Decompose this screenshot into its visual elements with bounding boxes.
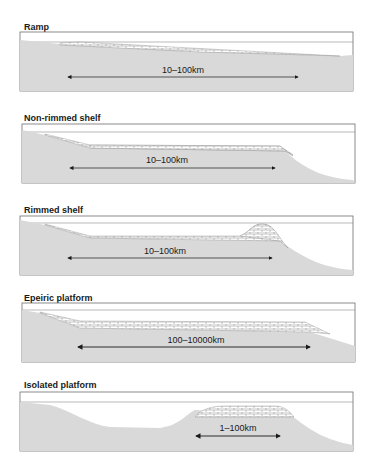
isolated-platform-diagram: 1–100km: [0, 390, 375, 454]
panel-title-isolated-platform: Isolated platform: [24, 380, 97, 390]
dimension-label: 100–10000km: [167, 335, 224, 345]
dimension-label: 10–100km: [162, 65, 204, 75]
epeiric-platform-diagram: 100–10000km: [0, 301, 375, 365]
dimension-label: 10–100km: [146, 155, 188, 165]
rimmed-shelf-diagram: 10–100km: [0, 214, 375, 278]
ramp-diagram: 10–100km: [0, 30, 375, 94]
carbonate-platform: [195, 406, 294, 417]
dimension-label: 1–100km: [219, 423, 256, 433]
dimension-label: 10–100km: [144, 246, 186, 256]
non-rimmed-shelf-diagram: 10–100km: [0, 122, 375, 186]
